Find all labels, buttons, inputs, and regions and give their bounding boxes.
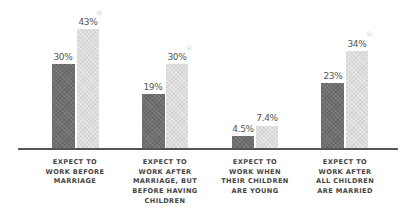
category-label: EXPECT TO WORK AFTER ALL CHILDREN ARE MA…	[305, 158, 385, 197]
x-axis-line	[18, 148, 398, 150]
value-label: 43%	[73, 17, 103, 27]
bar-work-children-married-dark	[321, 83, 344, 148]
bar-work-children-married-light	[346, 51, 368, 148]
category-label: EXPECT TO WORK WHEN THEIR CHILDREN ARE Y…	[215, 158, 295, 197]
value-label: 19%	[138, 82, 168, 92]
category-label: EXPECT TO WORK AFTER MARRIAGE, BUT BEFOR…	[125, 158, 205, 207]
bar-work-before-marriage-dark	[52, 64, 75, 148]
value-label: 30%	[48, 52, 78, 62]
bar-work-after-marriage-dark	[142, 94, 165, 148]
star-icon: ☆	[186, 44, 192, 52]
value-label: 34%	[342, 39, 372, 49]
bar-work-children-young-light	[256, 126, 278, 148]
value-label: 4.5%	[228, 124, 258, 134]
star-icon: ☆	[96, 9, 102, 17]
bar-chart: 30% 43% ☆ 19% 30% ☆ 4.5% 7.4% 23% 34% ☆ …	[0, 0, 416, 212]
category-label: EXPECT TO WORK BEFORE MARRIAGE	[35, 158, 115, 187]
value-label: 7.4%	[252, 113, 282, 123]
value-label: 23%	[318, 71, 348, 81]
bar-work-children-young-dark	[232, 136, 254, 148]
star-icon: ☆	[366, 30, 372, 38]
value-label: 30%	[162, 52, 192, 62]
bar-work-before-marriage-light	[77, 29, 99, 148]
bar-work-after-marriage-light	[166, 64, 188, 148]
